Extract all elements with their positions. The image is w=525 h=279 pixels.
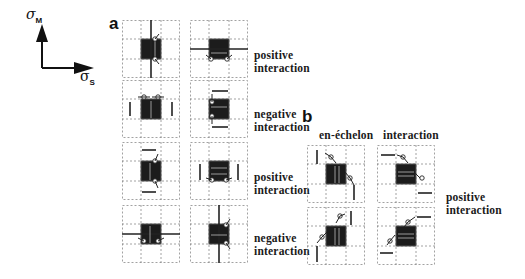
panel-a-row4-label: negativeinteraction: [254, 232, 310, 258]
tile-a-r2-c1-h: [190, 20, 248, 78]
tile-b-r1-c2: [377, 145, 435, 203]
panel-a-letter: a: [109, 14, 118, 34]
panel-a-row1-label: positiveinteraction: [254, 49, 310, 75]
sigma-m-label: σM: [26, 6, 42, 25]
tile-a-r4-c2: [190, 205, 248, 263]
tile-b-r1-c1: [307, 145, 365, 203]
tile-a-r2-c2: [190, 80, 248, 138]
tile-a-r4-c1: [122, 205, 180, 263]
panel-b-letter: b: [302, 107, 312, 127]
panel-a-row3-label: positiveinteraction: [254, 171, 310, 197]
tile-a-r1-c1: [122, 20, 180, 78]
panel-b-header-interaction: interaction: [383, 129, 439, 142]
sigma-s-label: σS: [80, 68, 95, 87]
tile-a-r3-c1: [122, 142, 180, 200]
tile-b-r2-c2: [377, 207, 435, 265]
panel-b-side-label: positiveinteraction: [446, 191, 502, 217]
tile-a-r3-c2: [190, 142, 248, 200]
tile-b-r2-c1: [307, 207, 365, 265]
panel-b-header-en-echelon: en-échelon: [319, 129, 373, 142]
tile-a-r2-c1: [122, 80, 180, 138]
